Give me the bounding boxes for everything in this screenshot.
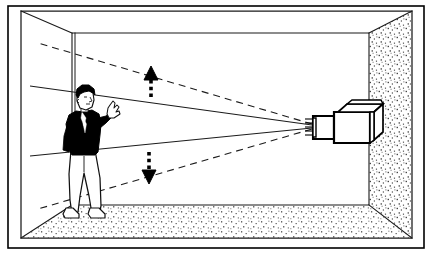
projector-body-right-edge [370,112,374,143]
projector-room-diagram [0,0,432,254]
floor-stipple [21,205,412,238]
projector-body [334,112,370,143]
diagram-canvas [0,0,432,254]
projector-lens-front-ring [313,118,316,137]
projector-top-lid-lip [347,100,383,104]
